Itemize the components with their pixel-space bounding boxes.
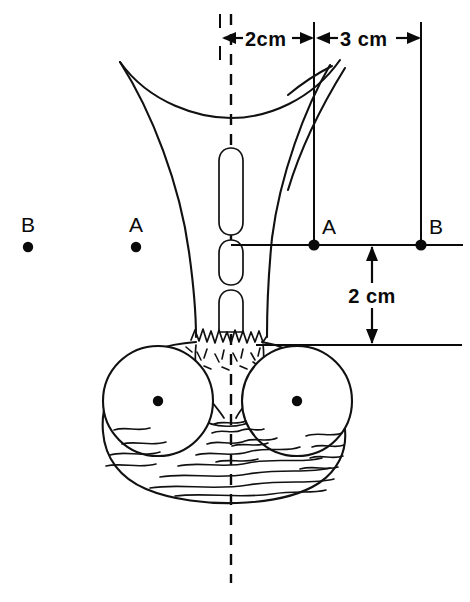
neck-left-wall — [120, 62, 196, 337]
point-label-B-right: B — [429, 215, 443, 238]
nodule-group — [103, 346, 352, 456]
dim-vertical-lower-arrowhead — [366, 329, 378, 344]
point-dot-B-left — [23, 242, 33, 252]
dim-3cm-right-arrowhead — [407, 32, 421, 44]
central-channel-group — [219, 148, 243, 332]
vertical-dimension-group: 2 cm — [348, 246, 396, 344]
dim-label-vertical-2cm: 2 cm — [348, 285, 396, 307]
dim-3cm-left-arrowhead — [316, 32, 330, 44]
diagram-canvas: 2cm 3 cm A — [0, 0, 470, 602]
point-label-A-right: A — [322, 215, 336, 238]
dim-label-3cm: 3 cm — [340, 28, 388, 50]
channel-segment-3 — [219, 290, 243, 332]
point-dot-B-right — [415, 239, 426, 250]
point-dot-A-left — [131, 242, 141, 252]
left-points-group: B A — [21, 213, 143, 252]
channel-segment-1 — [219, 148, 243, 235]
dim-vertical-upper-arrowhead — [366, 246, 378, 261]
dim-2cm-left-arrowhead — [222, 32, 236, 44]
point-label-A-left: A — [129, 213, 143, 236]
nodule-right-center-dot — [292, 396, 302, 406]
top-dimension-group: 2cm 3 cm — [220, 14, 421, 60]
nodule-left-center-dot — [153, 396, 163, 406]
point-label-B-left: B — [21, 213, 35, 236]
reference-line-group: A B — [231, 215, 463, 251]
neck-right-wall-inner — [267, 65, 330, 337]
extension-lines-group — [314, 26, 421, 245]
point-dot-A-right — [308, 239, 319, 250]
technical-diagram: 2cm 3 cm A — [0, 0, 470, 602]
channel-segment-2 — [219, 240, 243, 285]
dim-label-2cm: 2cm — [245, 28, 287, 50]
dim-2cm-right-arrowhead — [300, 32, 314, 44]
